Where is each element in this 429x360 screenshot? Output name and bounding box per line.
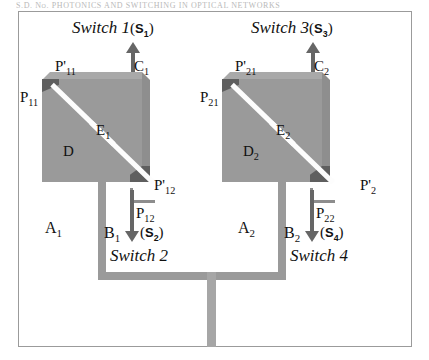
waveguide-segment-lower [266,122,326,182]
horizontal-manifold-bar [98,272,286,280]
waveguide-segment-lower [86,122,146,182]
branch-label-b1: B1 [104,224,120,244]
port-label-p22: P22 [316,205,335,224]
port-label-p-prime-21: P'21 [235,58,256,77]
branch-label-b2: B2 [284,224,300,244]
port-label-p-prime-2: P'2 [360,177,376,196]
switch-1-badge: S1 [135,21,149,36]
port-label-c2: C2 [314,58,329,77]
central-output-stem [207,272,216,347]
switch-2-badge: (S2) [140,224,164,243]
switch-3-title: Switch 3(S3) [251,18,333,39]
switch-4-title: Switch 4 [290,246,348,266]
port-label-p-prime-11: P'11 [55,58,76,77]
zone-label-a2: A2 [238,219,255,239]
port-label-p-prime-12: P'12 [154,177,175,196]
port-label-c1: C1 [134,58,149,77]
region-label-e2: E2 [276,122,290,141]
switch-3-badge-close: ) [328,20,333,36]
region-label-d: D [63,143,74,162]
switch-3-badge: S3 [314,21,328,36]
arrow-head-icon [125,231,139,242]
arrow-head-icon [305,231,319,242]
region-label-d2: D2 [243,143,259,162]
zone-label-a1: A1 [45,219,62,239]
arrow-shaft [310,190,314,234]
arrow-shaft [130,190,134,234]
figure-root: S.D. No. PHOTONICS AND SWITCHING IN OPTI… [0,0,429,360]
region-label-e1: E1 [96,122,110,141]
switch-3-title-text: Switch 3 [251,18,309,37]
port-label-p11: P11 [20,89,38,108]
switch-4-badge: (S4) [320,224,344,243]
port-label-p21: P21 [200,89,219,108]
switch-1-title-text: Switch 1 [72,18,130,37]
switch-2-title: Switch 2 [110,246,168,266]
page-header-text: S.D. No. PHOTONICS AND SWITCHING IN OPTI… [16,0,416,9]
port-label-p12: P12 [136,205,155,224]
switch-1-title: Switch 1(S1) [72,18,154,39]
switch-1-badge-close: ) [149,20,154,36]
